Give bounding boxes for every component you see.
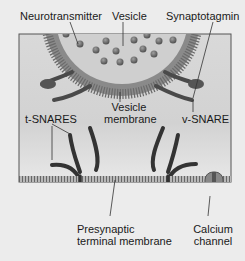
vesicle-membrane-label-line1: Vesicle (104, 101, 154, 113)
synapse-diagram (0, 0, 245, 261)
t-snares-label: t-SNARES (25, 113, 77, 125)
presynaptic-membrane (19, 176, 231, 192)
presynaptic-label-line2: terminal membrane (77, 235, 172, 247)
vesicle-label: Vesicle (112, 10, 147, 22)
calcium-label-line1: Calcium (190, 223, 236, 235)
neurotransmitter-label: Neurotransmitter (20, 10, 102, 22)
calcium-label-line2: channel (190, 235, 236, 247)
vesicle-membrane-label-line2: membrane (104, 113, 154, 125)
calcium-channel-label: Calcium channel (190, 223, 236, 247)
v-snare-label: v-SNARE (182, 113, 229, 125)
presynaptic-label-line1: Presynaptic (77, 223, 172, 235)
synaptotagmin-label: Synaptotagmin (166, 10, 239, 22)
calcium-channel (205, 172, 223, 200)
presynaptic-membrane-label: Presynaptic terminal membrane (77, 223, 172, 247)
vesicle-membrane-label: Vesicle membrane (104, 101, 154, 125)
